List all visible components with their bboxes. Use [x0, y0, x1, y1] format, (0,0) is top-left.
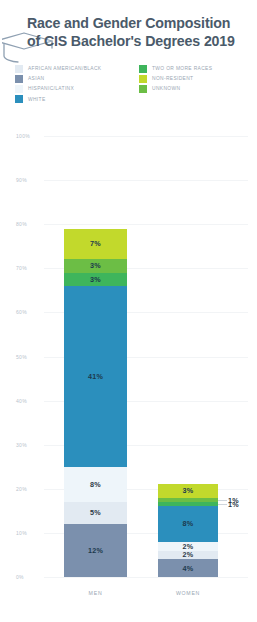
chart-page: Race and Gender Composition of CIS Bache… — [0, 0, 257, 622]
y-axis-tick-label: 20% — [16, 486, 44, 492]
stacked-bar-women[interactable]: 4%2%2%8%3% — [158, 136, 218, 577]
bar-segment[interactable]: 8% — [158, 506, 218, 541]
y-axis-tick-label: 40% — [16, 398, 44, 404]
bar-segment-outside-label: 1% — [228, 502, 239, 509]
leader-line — [218, 504, 227, 505]
bar-segment-label: 3% — [90, 262, 101, 269]
leader-line — [218, 500, 227, 501]
y-axis-tick-label: 0% — [16, 574, 44, 580]
y-axis-tick-label: 90% — [16, 177, 44, 183]
chart-plot-area: 0%10%20%30%40%50%60%70%80%90%100% 12%5%8… — [0, 0, 257, 622]
bar-segment-label: 3% — [183, 487, 194, 494]
y-axis-tick-label: 100% — [16, 133, 44, 139]
bar-segment-label: 2% — [183, 543, 194, 550]
bar-segment[interactable]: 2% — [158, 542, 218, 551]
stacked-bar-men[interactable]: 12%5%8%41%3%3%7% — [64, 136, 127, 577]
bar-segment[interactable]: 41% — [64, 286, 127, 467]
bar-segment-label: 4% — [183, 565, 194, 572]
bar-segment-label: 8% — [183, 520, 194, 527]
y-axis-tick-label: 30% — [16, 442, 44, 448]
y-axis-tick-label: 60% — [16, 309, 44, 315]
bar-segment[interactable]: 2% — [158, 551, 218, 560]
bar-segment[interactable]: 3% — [158, 484, 218, 497]
y-axis-tick-label: 80% — [16, 221, 44, 227]
bar-segment-label: 41% — [88, 373, 103, 380]
gridline — [44, 577, 248, 578]
y-axis-tick-label: 10% — [16, 530, 44, 536]
bar-segment-label: 5% — [90, 509, 101, 516]
bar-segment[interactable]: 4% — [158, 559, 218, 577]
bar-segment-label: 7% — [90, 240, 101, 247]
bar-segment[interactable]: 12% — [64, 524, 127, 577]
bar-segment[interactable]: 8% — [64, 467, 127, 502]
bar-segment[interactable]: 3% — [64, 259, 127, 272]
bar-segment-label: 8% — [90, 481, 101, 488]
y-axis-tick-label: 50% — [16, 354, 44, 360]
y-axis-tick-label: 70% — [16, 265, 44, 271]
x-axis-label-women: WOMEN — [158, 590, 218, 596]
bar-segment[interactable] — [158, 502, 218, 506]
bar-segment-label: 3% — [90, 276, 101, 283]
bar-segment[interactable]: 5% — [64, 502, 127, 524]
bar-segment-label: 2% — [183, 551, 194, 558]
bar-segment[interactable]: 3% — [64, 273, 127, 286]
bar-segment-label: 12% — [88, 547, 103, 554]
bar-segment[interactable]: 7% — [64, 229, 127, 260]
x-axis-label-men: MEN — [64, 590, 127, 596]
bar-segment[interactable] — [158, 498, 218, 502]
